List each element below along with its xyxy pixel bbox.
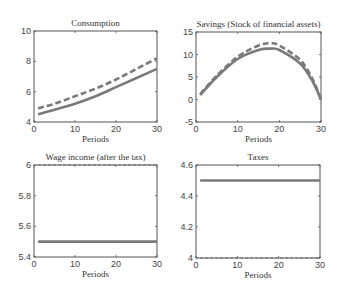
x-axis-label: Periods (82, 269, 109, 279)
y-tick-label: 4.2 (180, 222, 193, 232)
chart-title: Savings (Stock of financial assets) (197, 19, 321, 29)
x-tick-label: 0 (193, 260, 198, 270)
x-tick-label: 10 (70, 259, 80, 269)
y-tick-label: 5.8 (18, 191, 31, 201)
y-tick-label: 6 (26, 87, 31, 97)
y-tick-label: 4.6 (180, 160, 193, 170)
x-tick-label: 0 (193, 124, 198, 134)
x-tick-label: 20 (274, 260, 284, 270)
x-tick-label: 20 (274, 124, 284, 134)
y-tick-label: 5 (188, 72, 193, 82)
y-tick-label: 4 (188, 253, 193, 263)
axes-box (34, 165, 157, 257)
chart-title: Wage income (after the tax) (45, 152, 145, 162)
chart-title: Consumption (71, 18, 120, 28)
y-tick-label: 6 (26, 160, 31, 170)
x-tick-label: 20 (111, 124, 121, 134)
x-tick-label: 10 (70, 124, 80, 134)
x-tick-label: 0 (31, 259, 36, 269)
y-tick-label: 0 (188, 95, 193, 105)
x-tick-label: 10 (233, 124, 243, 134)
x-tick-label: 30 (152, 124, 162, 134)
chart-panel-4: TaxesPeriods010203044.24.44.6 (180, 152, 325, 280)
x-axis-label: Periods (245, 270, 272, 280)
chart-panel-1: ConsumptionPeriods010203046810 (21, 18, 162, 144)
y-tick-label: 5.4 (18, 252, 31, 262)
y-tick-label: 5.6 (18, 221, 31, 231)
y-tick-label: 4 (26, 117, 31, 127)
chart-panel-2: Savings (Stock of financial assets)Perio… (183, 19, 326, 144)
x-tick-label: 10 (232, 260, 242, 270)
y-tick-label: 10 (21, 26, 31, 36)
x-axis-label: Periods (82, 134, 109, 144)
y-tick-label: -5 (185, 117, 193, 127)
y-tick-label: 4.4 (180, 191, 193, 201)
x-tick-label: 30 (152, 259, 162, 269)
x-tick-label: 30 (315, 260, 325, 270)
x-tick-label: 20 (111, 259, 121, 269)
x-tick-label: 0 (31, 124, 36, 134)
chart-title: Taxes (248, 152, 269, 162)
x-axis-label: Periods (245, 134, 272, 144)
y-tick-label: 8 (26, 56, 31, 66)
x-tick-label: 30 (316, 124, 326, 134)
chart-panel-3: Wage income (after the tax)Periods010203… (18, 152, 162, 279)
y-tick-label: 10 (183, 50, 193, 60)
y-tick-label: 15 (183, 27, 193, 37)
axes-box (196, 165, 320, 258)
figure: ConsumptionPeriods010203046810Savings (S… (0, 0, 340, 296)
